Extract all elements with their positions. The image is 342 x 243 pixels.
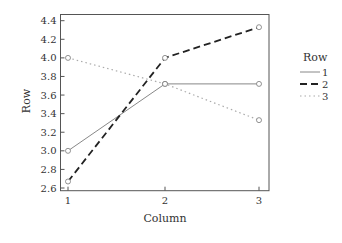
data-point-marker (66, 148, 71, 153)
legend-label-2: 2 (322, 79, 328, 90)
data-point-marker (66, 179, 71, 184)
data-point-marker (257, 25, 262, 30)
series-layer (66, 25, 262, 184)
y-tick-label: 3.4 (41, 108, 57, 119)
y-tick-label: 3.2 (41, 127, 57, 138)
data-point-marker (163, 55, 168, 60)
y-tick-label: 2.8 (41, 164, 57, 175)
x-tick-label: 3 (256, 195, 262, 206)
y-tick-label: 3.0 (41, 145, 57, 156)
y-tick-label: 4.0 (41, 52, 57, 63)
interaction-line-chart: 2.62.83.03.23.43.63.84.04.24.4123 Row Co… (0, 0, 342, 243)
y-tick-label: 3.8 (41, 71, 57, 82)
y-tick-label: 2.6 (41, 183, 57, 194)
series-2 (66, 25, 262, 184)
y-axis-label: Row (20, 88, 33, 113)
series-3 (66, 55, 262, 122)
y-tick-label: 3.6 (41, 90, 57, 101)
data-point-marker (163, 81, 168, 86)
legend-label-3: 3 (322, 91, 328, 102)
plot-frame (61, 15, 270, 191)
legend-label-1: 1 (322, 67, 328, 78)
data-point-marker (257, 118, 262, 123)
series-line (68, 84, 259, 151)
data-point-marker (257, 81, 262, 86)
series-1 (66, 81, 262, 153)
x-tick-label: 1 (65, 195, 71, 206)
data-point-marker (66, 55, 71, 60)
y-tick-label: 4.2 (41, 34, 57, 45)
legend-title: Row (303, 51, 328, 64)
plot-area: 2.62.83.03.23.43.63.84.04.24.4123 (41, 15, 269, 206)
series-line (68, 58, 259, 120)
y-tick-label: 4.4 (41, 15, 57, 26)
legend: Row 123 (300, 51, 328, 102)
series-line (68, 27, 259, 181)
x-axis-label: Column (143, 212, 186, 225)
x-tick-label: 2 (162, 195, 168, 206)
